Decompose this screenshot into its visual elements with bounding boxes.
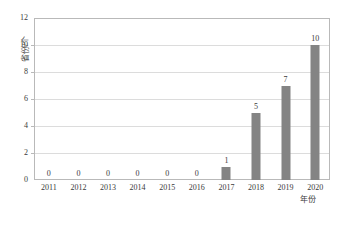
bar-slot: 0 bbox=[182, 18, 212, 180]
bar-slot: 0 bbox=[93, 18, 123, 180]
bar-slot: 1 bbox=[212, 18, 242, 180]
bar-series: 00000015710 bbox=[34, 18, 330, 180]
x-axis-tick-label: 2017 bbox=[212, 183, 242, 193]
bar-value-label: 0 bbox=[136, 170, 140, 178]
bar-chart: 省份/个 024681012 00000015710 2011201220132… bbox=[0, 0, 342, 230]
x-axis-tick-label: 2019 bbox=[271, 183, 301, 193]
bar-value-label: 5 bbox=[254, 103, 258, 111]
y-axis-tick-label: 10 bbox=[0, 41, 28, 49]
bar-value-label: 10 bbox=[311, 35, 319, 43]
x-axis-tick-label: 2011 bbox=[34, 183, 64, 193]
bar-value-label: 7 bbox=[284, 76, 288, 84]
bar-value-label: 0 bbox=[47, 170, 51, 178]
x-axis-tick-label: 2015 bbox=[152, 183, 182, 193]
x-axis-tick-label: 2018 bbox=[241, 183, 271, 193]
y-axis-tick-label: 8 bbox=[0, 68, 28, 76]
x-axis-tick-label: 2020 bbox=[300, 183, 330, 193]
bar-slot: 0 bbox=[152, 18, 182, 180]
bar-slot: 0 bbox=[34, 18, 64, 180]
bar-slot: 5 bbox=[241, 18, 271, 180]
x-axis-ticks: 2011201220132014201520162017201820192020 bbox=[34, 183, 330, 195]
y-axis-tick-label: 2 bbox=[0, 149, 28, 157]
bar-slot: 0 bbox=[64, 18, 94, 180]
x-axis-tick-label: 2012 bbox=[64, 183, 94, 193]
x-axis-tick-label: 2013 bbox=[93, 183, 123, 193]
y-axis-tick-label: 12 bbox=[0, 14, 28, 22]
bar-slot: 7 bbox=[271, 18, 301, 180]
x-axis-title: 年份 bbox=[285, 195, 330, 205]
bar bbox=[281, 86, 290, 181]
bar-slot: 0 bbox=[123, 18, 153, 180]
bar-value-label: 0 bbox=[165, 170, 169, 178]
bar bbox=[222, 167, 231, 181]
x-axis-tick-label: 2016 bbox=[182, 183, 212, 193]
bar-value-label: 0 bbox=[76, 170, 80, 178]
bar-value-label: 0 bbox=[106, 170, 110, 178]
bar bbox=[251, 113, 260, 181]
bar-value-label: 0 bbox=[195, 170, 199, 178]
y-axis-tick-label: 0 bbox=[0, 176, 28, 184]
y-axis-tick-label: 4 bbox=[0, 122, 28, 130]
x-axis-tick-label: 2014 bbox=[123, 183, 153, 193]
bar bbox=[311, 45, 320, 180]
bar-value-label: 1 bbox=[224, 157, 228, 165]
bar-slot: 10 bbox=[300, 18, 330, 180]
y-axis-tick-label: 6 bbox=[0, 95, 28, 103]
